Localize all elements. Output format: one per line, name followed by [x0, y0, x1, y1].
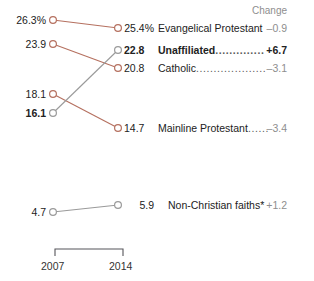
series-catholic: [50, 41, 122, 72]
change-value-catholic: –3.1: [215, 63, 287, 74]
left-value-mainline: 18.1: [0, 89, 46, 100]
change-column-header: Change: [215, 5, 287, 16]
slopegraph-plot: [0, 0, 314, 281]
right-value-evangelical: 25.4%: [124, 23, 154, 34]
axis-label-end-year: 2014: [109, 260, 132, 272]
row-label-unaffiliated-text: Unaffiliated: [158, 44, 215, 56]
axis-label-start-year: 2007: [41, 260, 64, 272]
change-value-unaffiliated: +6.7: [215, 45, 287, 56]
row-label-catholic-text: Catholic: [158, 62, 196, 74]
x-axis-bracket: [55, 249, 123, 256]
left-value-unaffiliated: 16.1: [0, 108, 46, 119]
right-value-unaffiliated: 22.8: [124, 45, 154, 56]
series-unaffiliated: [50, 47, 122, 117]
series-evangelical-protestant: [50, 17, 122, 32]
left-value-non-christian: 4.7: [0, 207, 46, 218]
left-value-evangelical: 26.3%: [0, 15, 46, 26]
change-value-non-christian: +1.2: [215, 200, 287, 211]
series-mainline-protestant: [50, 91, 122, 132]
right-value-non-christian: 5.9: [124, 200, 154, 211]
left-value-catholic: 23.9: [0, 39, 46, 50]
change-value-mainline: –3.4: [215, 123, 287, 134]
right-value-mainline: 14.7: [124, 123, 154, 134]
right-value-catholic: 20.8: [124, 63, 154, 74]
series-non-christian-faiths: [50, 202, 122, 216]
change-value-evangelical: –0.9: [215, 23, 287, 34]
